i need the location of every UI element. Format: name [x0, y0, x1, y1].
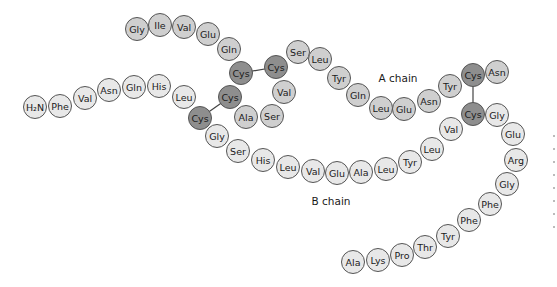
b-chain: H₂NPheValAsnGlnHisLeuCysGlySerHisLeuValG… — [24, 75, 528, 274]
residue-leu: Leu — [309, 48, 332, 71]
residue-lys: Lys — [367, 249, 390, 272]
residue-hn: H₂N — [24, 96, 47, 119]
residue-label: H₂N — [26, 102, 44, 113]
residue-label: Phe — [481, 199, 499, 210]
residue-gly: Gly — [206, 125, 229, 148]
residue-tyr: Tyr — [439, 75, 462, 98]
residue-cys: Cys — [462, 64, 485, 87]
residue-label: Val — [277, 87, 291, 98]
residue-gln: Gln — [347, 84, 370, 107]
residue-val: Val — [74, 87, 97, 110]
residue-label: Gly — [489, 110, 505, 121]
residue-label: Ala — [239, 112, 254, 123]
residue-label: Cys — [191, 113, 208, 124]
residue-leu: Leu — [277, 156, 300, 179]
residue-label: Val — [78, 93, 92, 104]
residue-label: Ser — [264, 111, 280, 122]
residue-ala: Ala — [235, 106, 258, 129]
residue-label: His — [256, 155, 271, 166]
residue-label: Gly — [499, 179, 515, 190]
residue-label: Asn — [488, 67, 505, 78]
a-chain-label: A chain — [379, 72, 418, 84]
residue-ser: Ser — [227, 140, 250, 163]
residue-label: Ser — [290, 47, 306, 58]
residue-label: Gly — [129, 24, 145, 35]
residue-leu: Leu — [173, 86, 196, 109]
residue-label: Leu — [280, 162, 297, 173]
residue-gln: Gln — [123, 76, 146, 99]
residue-cys: Cys — [265, 56, 288, 79]
residue-label: Pro — [394, 250, 409, 261]
residue-label: Ser — [230, 146, 246, 157]
insulin-structure-diagram: GlyIleValGluGlnCysCysValSerAlaCysSerLeuT… — [0, 0, 557, 287]
residue-cys: Cys — [219, 86, 242, 109]
residue-ala: Ala — [350, 161, 373, 184]
residue-phe: Phe — [458, 209, 481, 232]
residue-label: Cys — [464, 109, 481, 120]
residue-label: Arg — [508, 155, 524, 166]
residue-label: Cys — [221, 92, 238, 103]
residue-gln: Gln — [218, 38, 241, 61]
residue-tyr: Tyr — [437, 225, 460, 248]
residue-asn: Asn — [418, 90, 441, 113]
residue-label: Val — [306, 166, 320, 177]
residue-tyr: Tyr — [399, 151, 422, 174]
residue-label: Glu — [396, 104, 412, 115]
residue-his: His — [252, 149, 275, 172]
residue-ala: Ala — [342, 251, 365, 274]
b-chain-label: B chain — [312, 195, 351, 207]
residue-leu: Leu — [370, 97, 393, 120]
residue-glu: Glu — [326, 162, 349, 185]
residue-label: Phe — [460, 215, 478, 226]
residue-label: Lys — [371, 255, 386, 266]
residue-glu: Glu — [197, 23, 220, 46]
residue-cys: Cys — [230, 62, 253, 85]
residue-label: Cys — [232, 68, 249, 79]
residue-label: Leu — [312, 54, 329, 65]
residue-label: Glu — [200, 29, 216, 40]
residue-label: Val — [444, 124, 458, 135]
residue-gly: Gly — [126, 18, 149, 41]
residue-label: Val — [177, 22, 191, 33]
residue-glu: Glu — [393, 98, 416, 121]
residue-cys: Cys — [462, 103, 485, 126]
residue-label: Glu — [505, 129, 521, 140]
residue-gly: Gly — [496, 173, 519, 196]
residue-cys: Cys — [189, 107, 212, 130]
residue-label: Tyr — [440, 231, 455, 242]
residue-pro: Pro — [391, 244, 414, 267]
a-chain: GlyIleValGluGlnCysCysValSerAlaCysSerLeuT… — [126, 14, 509, 129]
residue-label: Tyr — [442, 81, 457, 92]
residue-label: Leu — [378, 164, 395, 175]
residue-label: Gln — [126, 82, 142, 93]
residue-his: His — [148, 75, 171, 98]
residue-label: Tyr — [331, 73, 346, 84]
residue-phe: Phe — [49, 95, 72, 118]
residue-val: Val — [440, 118, 463, 141]
residue-asn: Asn — [98, 79, 121, 102]
residue-label: Ile — [154, 20, 165, 31]
edge-marks — [553, 135, 556, 250]
residue-tyr: Tyr — [328, 67, 351, 90]
residue-phe: Phe — [479, 193, 502, 216]
residue-label: Leu — [373, 103, 390, 114]
residue-label: Gln — [221, 44, 237, 55]
residue-val: Val — [302, 160, 325, 183]
residue-label: His — [152, 81, 167, 92]
residue-label: Leu — [176, 92, 193, 103]
residue-label: Glu — [329, 168, 345, 179]
residue-label: Leu — [424, 144, 441, 155]
residue-val: Val — [273, 81, 296, 104]
residue-label: Cys — [464, 70, 481, 81]
residue-label: Asn — [420, 96, 437, 107]
residue-val: Val — [173, 16, 196, 39]
residue-arg: Arg — [505, 149, 528, 172]
residue-ser: Ser — [261, 105, 284, 128]
residue-glu: Glu — [502, 123, 525, 146]
residue-label: Ala — [354, 167, 369, 178]
residue-leu: Leu — [375, 158, 398, 181]
residue-label: Asn — [100, 85, 117, 96]
residue-thr: Thr — [414, 236, 437, 259]
residue-ser: Ser — [287, 41, 310, 64]
residue-label: Cys — [267, 62, 284, 73]
